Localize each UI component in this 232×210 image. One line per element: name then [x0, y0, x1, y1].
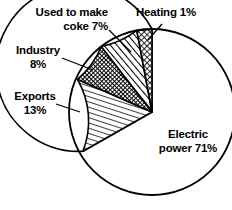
- slice-label-coke: Used to make coke 7%: [4, 6, 108, 33]
- slice-label-exports: Exports 13%: [0, 90, 70, 117]
- slice-label-industry: Industry 8%: [2, 44, 74, 71]
- pie-chart: Used to make coke 7% Heating 1% Industry…: [0, 0, 232, 210]
- slice-label-electric-power: Electric power 71%: [148, 128, 228, 155]
- slice-label-heating: Heating 1%: [136, 6, 228, 20]
